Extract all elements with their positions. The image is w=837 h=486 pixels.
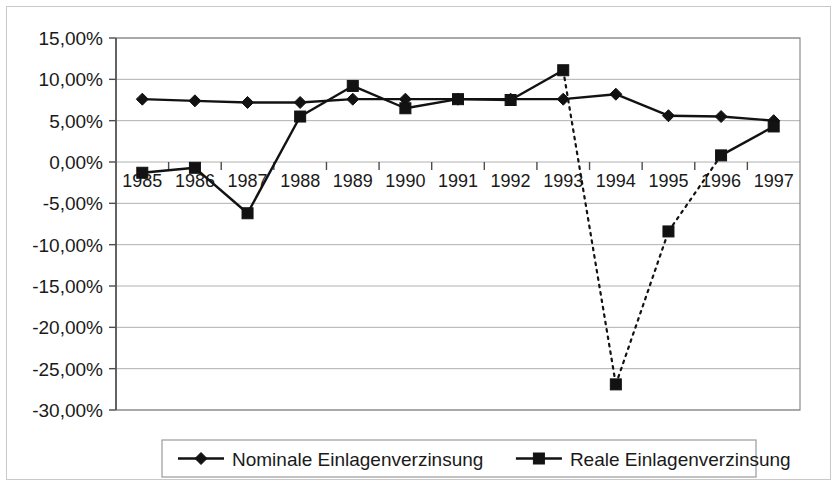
y-tick-label: -25,00% [32, 359, 103, 380]
chart-figure: 15,00%10,00%5,00%0,00%-5,00%-10,00%-15,0… [0, 0, 837, 486]
data-point-marker-square [137, 167, 148, 178]
data-point-marker-diamond [610, 88, 622, 100]
data-point-marker-diamond [347, 93, 359, 105]
y-axis-tick-labels: 15,00%10,00%5,00%0,00%-5,00%-10,00%-15,0… [32, 28, 103, 421]
x-tick-label: 1994 [596, 171, 636, 191]
series-segment [405, 99, 458, 108]
data-point-marker-diamond [136, 93, 148, 105]
series-segment [142, 99, 195, 101]
series-segment [248, 117, 301, 214]
legend-label: Nominale Einlagenverzinsung [232, 449, 483, 470]
legend-marker-square [533, 453, 544, 464]
y-tick-label: -15,00% [32, 276, 103, 297]
data-point-marker-square [189, 162, 200, 173]
x-tick-label: 1997 [754, 171, 794, 191]
series-segment [458, 99, 511, 100]
y-tick-label: 0,00% [49, 152, 103, 173]
y-tick-label: 15,00% [39, 28, 104, 49]
series-segment [616, 94, 669, 115]
series-segment [721, 117, 774, 121]
x-tick-label: 1991 [438, 171, 478, 191]
data-point-marker-square [400, 103, 411, 114]
x-tick-label: 1995 [648, 171, 688, 191]
chart-legend: Nominale EinlagenverzinsungReale Einlage… [162, 440, 791, 477]
data-point-marker-square [453, 94, 464, 105]
y-tick-label: -5,00% [43, 193, 103, 214]
y-tick-label: -10,00% [32, 235, 103, 256]
series-segment [668, 116, 721, 117]
data-point-marker-square [768, 121, 779, 132]
data-point-marker-square [663, 226, 674, 237]
data-point-marker-square [610, 379, 621, 390]
y-tick-label: 5,00% [49, 111, 103, 132]
y-tick-label: -30,00% [32, 400, 103, 421]
axis-ticks-group [109, 38, 747, 410]
series-lines-group [142, 70, 773, 384]
legend-label: Reale Einlagenverzinsung [570, 449, 791, 470]
data-point-marker-square [505, 95, 516, 106]
series-segment [616, 231, 669, 384]
data-point-marker-diamond [662, 110, 674, 122]
x-tick-label: 1990 [385, 171, 425, 191]
x-tick-label: 1989 [333, 171, 373, 191]
series-segment [563, 70, 616, 384]
data-point-marker-diamond [294, 96, 306, 108]
series-segment [511, 70, 564, 100]
x-tick-label: 1988 [280, 171, 320, 191]
data-point-marker-square [716, 150, 727, 161]
y-tick-label: -20,00% [32, 317, 103, 338]
data-point-marker-diamond [189, 95, 201, 107]
series-segment [563, 94, 616, 99]
data-point-marker-diamond [242, 96, 254, 108]
x-axis-tick-labels: 1985198619871988198919901991199219931994… [122, 171, 793, 191]
y-tick-label: 10,00% [39, 69, 104, 90]
data-point-marker-square [242, 208, 253, 219]
x-tick-label: 1993 [543, 171, 583, 191]
data-point-marker-square [347, 80, 358, 91]
line-chart-svg: 15,00%10,00%5,00%0,00%-5,00%-10,00%-15,0… [0, 0, 837, 486]
series-segment [195, 101, 248, 103]
plot-container: 15,00%10,00%5,00%0,00%-5,00%-10,00%-15,0… [0, 0, 837, 486]
series-segment [353, 86, 406, 108]
data-point-marker-square [295, 111, 306, 122]
series-markers-group [136, 65, 779, 390]
x-tick-label: 1992 [491, 171, 531, 191]
data-point-marker-square [558, 65, 569, 76]
series-segment [721, 126, 774, 155]
